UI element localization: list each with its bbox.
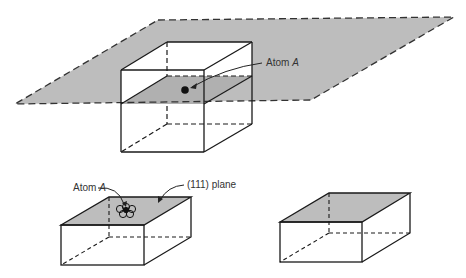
box-hidden-edge bbox=[280, 233, 329, 262]
crystal-plane-diagram: Atom A Atom A (111) plane bbox=[0, 0, 466, 278]
box-front-face bbox=[61, 225, 144, 265]
cube-edge bbox=[204, 124, 252, 152]
atom-a-label: Atom A bbox=[266, 57, 299, 68]
bottom-right-box-group bbox=[280, 193, 410, 262]
plane-111-label: (111) plane bbox=[187, 179, 237, 190]
diagram-canvas: Atom A Atom A (111) plane bbox=[0, 0, 466, 278]
cube-hidden-edge bbox=[121, 124, 167, 152]
box-front-face bbox=[280, 222, 362, 262]
top-cube-group: Atom A bbox=[15, 17, 454, 152]
atom-a-label: Atom A bbox=[73, 182, 106, 193]
atom-a-dot bbox=[181, 86, 189, 94]
top-plane-surface bbox=[280, 193, 410, 222]
bottom-left-box-group: Atom A (111) plane bbox=[61, 179, 237, 265]
box-hidden-edge bbox=[61, 237, 109, 265]
